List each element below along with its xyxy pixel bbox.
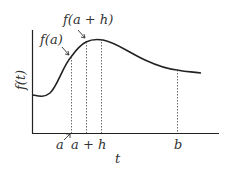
y-axis-label: f(t) (13, 70, 28, 91)
tick-label-b: b (174, 137, 182, 152)
tick-label-a-plus-h: a + h (71, 137, 106, 152)
function-diagram: f(a) f(a + h) a a + h b t f(t) (0, 0, 229, 170)
arrow-icon (62, 30, 85, 140)
function-curve (33, 39, 201, 96)
x-axis-label: t (115, 151, 121, 166)
tick-label-a: a (56, 137, 64, 152)
annotation-f-a-plus-h: f(a + h) (62, 12, 113, 27)
annotation-f-a: f(a) (39, 32, 63, 47)
